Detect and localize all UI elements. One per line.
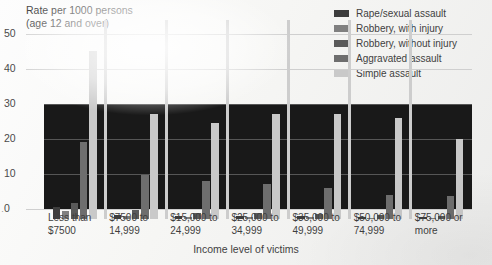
x-axis-category-line: $75,000 or bbox=[415, 212, 472, 225]
x-axis-title: Income level of victims bbox=[0, 243, 492, 255]
x-axis-category-label: $50,000 to74,999 bbox=[354, 212, 411, 237]
x-axis-category-line: $7500 to bbox=[109, 212, 166, 225]
x-axis-category-line: $50,000 to bbox=[354, 212, 411, 225]
x-axis-categories: Less than$7500$7500 to14,999$15,000 to24… bbox=[44, 212, 472, 242]
x-axis-category-label: $15,000 to24,999 bbox=[170, 212, 227, 237]
y-axis-tick-label: 40 bbox=[4, 62, 28, 74]
bar bbox=[272, 114, 280, 219]
x-axis-category-line: Less than bbox=[48, 212, 105, 225]
y-axis-tick-label: 10 bbox=[4, 167, 28, 179]
bar-group bbox=[289, 20, 350, 219]
y-axis-tick-label: 20 bbox=[4, 132, 28, 144]
bar bbox=[395, 118, 403, 220]
bar-group bbox=[411, 20, 472, 219]
x-axis-category-line: 74,999 bbox=[354, 225, 411, 238]
bar bbox=[456, 139, 464, 220]
y-axis-tick-label: 0 bbox=[4, 202, 28, 214]
page-edge-mark: · bbox=[1, 206, 4, 216]
x-axis-category-line: 24,999 bbox=[170, 225, 227, 238]
x-axis-category-line: $25,000 to bbox=[231, 212, 288, 225]
plot-area: 01020304050 bbox=[44, 10, 472, 209]
x-axis-category-line: $7500 bbox=[48, 225, 105, 238]
x-axis-category-line: 34,999 bbox=[231, 225, 288, 238]
bar bbox=[80, 142, 88, 219]
x-axis-category-line: more bbox=[415, 225, 472, 238]
bar-group bbox=[350, 20, 411, 219]
bar bbox=[89, 51, 97, 219]
bar bbox=[150, 114, 158, 219]
x-axis-category-label: $7500 to14,999 bbox=[109, 212, 166, 237]
bar bbox=[334, 114, 342, 219]
x-axis-category-line: 49,999 bbox=[293, 225, 350, 238]
bar-group bbox=[166, 20, 227, 219]
bar-group bbox=[105, 20, 166, 219]
bar-groups bbox=[44, 10, 472, 209]
x-axis-category-line: 14,999 bbox=[109, 225, 166, 238]
bar-group bbox=[44, 20, 105, 219]
x-axis-category-line: $15,000 to bbox=[170, 212, 227, 225]
y-axis-tick-label: 30 bbox=[4, 97, 28, 109]
x-axis-category-label: $25,000 to34,999 bbox=[231, 212, 288, 237]
x-axis-category-label: $75,000 ormore bbox=[415, 212, 472, 237]
x-axis-category-label: $35,000 to49,999 bbox=[293, 212, 350, 237]
bar bbox=[211, 123, 219, 219]
x-axis-category-label: Less than$7500 bbox=[48, 212, 105, 237]
bar-group bbox=[227, 20, 288, 219]
y-axis-tick-label: 50 bbox=[4, 27, 28, 39]
x-axis-category-line: $35,000 to bbox=[293, 212, 350, 225]
